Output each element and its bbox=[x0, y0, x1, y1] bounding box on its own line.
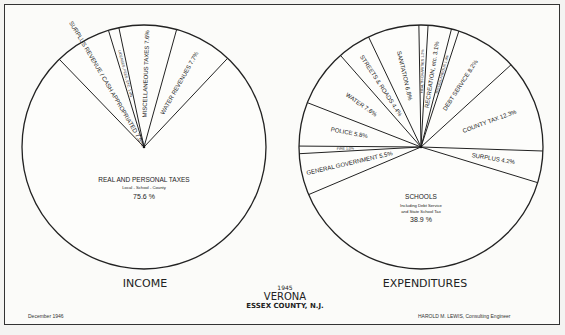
schools-sub-label-1: Including Debt Service bbox=[400, 203, 443, 208]
town-label: VERONA bbox=[240, 291, 330, 302]
schools-label: SCHOOLS bbox=[405, 193, 437, 200]
schools-pct: 38.9 % bbox=[410, 216, 432, 223]
income-main-pct: 75.6 % bbox=[133, 193, 155, 200]
income-main-label: REAL AND PERSONAL TAXES bbox=[98, 176, 190, 183]
county-label: ESSEX COUNTY, N.J. bbox=[225, 302, 345, 310]
schools-sub-label-2: and State School Tax bbox=[401, 209, 441, 214]
expenditures-pie: HEALTH-CHARITIES 1.2%RECREATION, etc. 3.… bbox=[299, 25, 543, 269]
income-sub-label: Local - School - County bbox=[122, 185, 166, 190]
date-label: December 1946 bbox=[28, 313, 64, 319]
expenditures-title: EXPENDITURES bbox=[370, 277, 480, 290]
income-pie: SURPLUS REVENUE / CASH APPROPRIATED 7.5%… bbox=[22, 20, 266, 269]
income-title: INCOME bbox=[100, 277, 190, 290]
credit-label: HAROLD M. LEWIS, Consulting Engineer bbox=[418, 313, 511, 319]
slice-label: FIRE 1.0% bbox=[337, 147, 355, 151]
year-label: 1945 bbox=[250, 284, 320, 291]
